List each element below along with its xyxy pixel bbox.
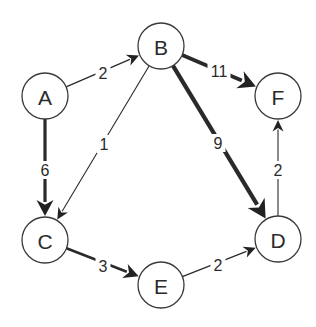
edge-weight-label: 6 (38, 161, 53, 179)
svg-text:2: 2 (274, 162, 283, 179)
node-label: D (270, 229, 285, 252)
graph-diagram: 261119322 ABCDEF (0, 0, 316, 327)
edge-labels-layer: 261119322 (38, 62, 286, 275)
edge-weight-label: 11 (208, 62, 231, 80)
svg-text:2: 2 (214, 257, 223, 274)
edge-weight-label: 2 (211, 256, 226, 274)
svg-text:6: 6 (41, 162, 50, 179)
node-label: A (38, 86, 52, 109)
node-D: D (255, 216, 301, 262)
arrowhead-icon (57, 207, 68, 220)
edges-layer (37, 55, 284, 278)
node-E: E (138, 262, 184, 308)
node-label: C (37, 230, 52, 253)
node-C: C (22, 217, 68, 263)
node-label: E (154, 275, 168, 298)
node-F: F (255, 73, 301, 119)
node-label: F (272, 86, 285, 109)
svg-text:2: 2 (99, 65, 108, 82)
arrowhead-icon (37, 200, 54, 216)
svg-text:11: 11 (211, 63, 228, 80)
node-label: B (154, 36, 168, 59)
edge-weight-label: 1 (97, 135, 112, 153)
edge-weight-label: 2 (271, 161, 286, 179)
edge-weight-label: 9 (211, 134, 226, 152)
nodes-layer: ABCDEF (22, 23, 301, 308)
svg-text:9: 9 (214, 135, 223, 152)
svg-text:3: 3 (99, 258, 108, 275)
edge-weight-label: 2 (96, 64, 111, 82)
node-A: A (22, 73, 68, 119)
edge-weight-label: 3 (96, 257, 111, 275)
node-B: B (138, 23, 184, 69)
svg-text:1: 1 (100, 136, 109, 153)
